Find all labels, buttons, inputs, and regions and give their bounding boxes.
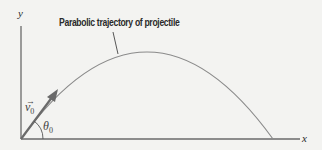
trajectory-label: Parabolic trajectory of projectile <box>59 16 179 28</box>
velocity-label: v0 <box>25 100 34 116</box>
y-axis-label: y <box>18 7 23 19</box>
angle-label: θ0 <box>43 119 53 135</box>
projectile-diagram: Parabolic trajectory of projectile y x →… <box>0 0 322 150</box>
velocity-subscript: 0 <box>30 107 34 116</box>
angle-subscript: 0 <box>49 126 53 135</box>
label-leader-line <box>113 32 118 54</box>
trajectory-curve <box>21 52 273 139</box>
angle-arc <box>34 121 43 139</box>
x-axis-label: x <box>302 132 307 144</box>
